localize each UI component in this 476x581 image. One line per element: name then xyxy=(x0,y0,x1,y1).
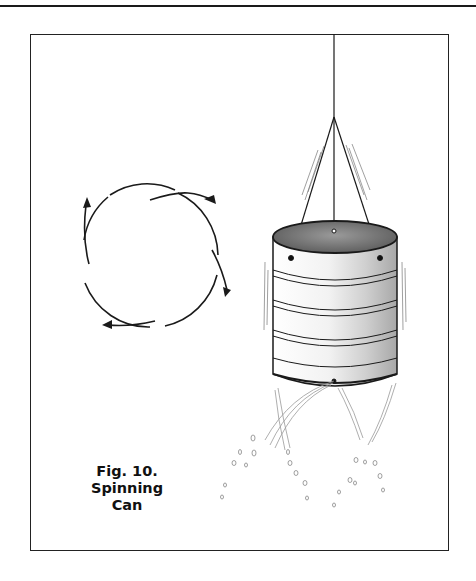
can xyxy=(273,221,397,386)
water-droplets xyxy=(221,435,385,507)
rotation-arrows-icon xyxy=(84,184,227,327)
figure-title-line1: Spinning xyxy=(72,480,182,497)
figure-caption: Fig. 10. Spinning Can xyxy=(72,463,182,514)
figure-number: Fig. 10. xyxy=(72,463,182,480)
figure-title-line2: Can xyxy=(72,497,182,514)
water-jets xyxy=(265,381,396,450)
